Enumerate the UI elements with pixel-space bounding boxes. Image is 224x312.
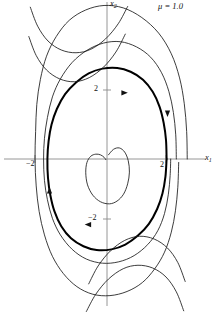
tick-label-x-negative: −2 <box>26 159 35 168</box>
flow-direction-arrow-1 <box>165 111 170 117</box>
phase-portrait-canvas <box>0 0 224 312</box>
axes-group <box>4 2 206 306</box>
tick-label-x-positive: 2 <box>160 160 164 169</box>
y-axis-label: x2 <box>110 0 117 9</box>
curve-field-curve-lower-1 <box>89 236 185 284</box>
flow-direction-arrow-3 <box>121 90 127 95</box>
flow-direction-arrow-2 <box>47 187 52 193</box>
curve-outer-trajectory-2 <box>35 5 187 295</box>
mu-parameter-label: μ = 1.0 <box>158 1 183 11</box>
curve-inner-spiral <box>86 148 130 204</box>
x-axis-label: x1 <box>205 152 212 163</box>
tick-label-y-negative: −2 <box>88 213 97 222</box>
trajectory-curves <box>29 5 187 311</box>
x-axis-label-subscript: 1 <box>209 157 212 163</box>
phase-portrait-figure: μ = 1.0 x1 x2 2 −2 −2 2 <box>0 0 224 312</box>
y-axis-label-subscript: 2 <box>114 3 117 9</box>
flow-direction-arrow-4 <box>85 222 91 227</box>
tick-label-y-positive: 2 <box>94 84 98 93</box>
curve-field-curve-lower-2 <box>86 265 183 311</box>
